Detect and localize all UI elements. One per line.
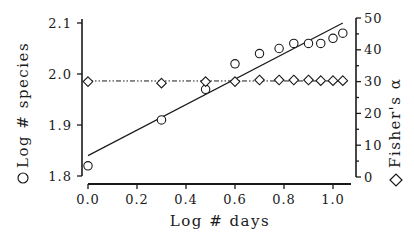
species-circle-marker — [304, 39, 312, 47]
x-tick-label: 0.2 — [125, 192, 149, 207]
species-circle-marker — [317, 39, 325, 47]
alpha-diamond-marker — [157, 78, 167, 88]
species-circle-marker — [339, 29, 347, 37]
right-y-tick-label: 20 — [364, 106, 383, 121]
alpha-diamond-marker — [328, 76, 338, 86]
data-points — [83, 29, 347, 170]
left-y-tick-label: 2.1 — [48, 16, 72, 31]
alpha-diamond-marker — [201, 77, 211, 87]
species-circle-marker — [290, 39, 298, 47]
right-y-tick-label: 40 — [364, 42, 383, 57]
species-circle-marker — [329, 34, 337, 42]
x-tick-label: 0.4 — [174, 192, 198, 207]
species-circle-marker — [275, 44, 283, 52]
alpha-diamond-marker — [289, 75, 299, 85]
left-y-tick-label: 1.9 — [48, 118, 72, 133]
species-circle-marker — [84, 162, 92, 170]
right-y-tick-label: 10 — [364, 138, 383, 153]
alpha-diamond-marker — [83, 77, 93, 87]
x-tick-label: 0.0 — [76, 192, 100, 207]
x-tick-label: 0.8 — [272, 192, 296, 207]
left-y-axis-title: Log # species — [14, 42, 32, 168]
diamond-marker-legend-icon — [390, 174, 402, 186]
left-y-tick-label: 1.8 — [48, 169, 72, 184]
right-y-tick-label: 0 — [364, 170, 373, 185]
axis-labels: Log # days Log # species Fisher's α — [14, 42, 404, 230]
species-circle-marker — [231, 60, 239, 68]
right-y-tick-label: 50 — [364, 11, 383, 26]
alpha-diamond-marker — [304, 75, 314, 85]
alpha-diamond-marker — [230, 77, 240, 87]
left-y-tick-label: 2.0 — [48, 67, 72, 82]
species-circle-marker — [255, 49, 263, 57]
alpha-diamond-marker — [338, 76, 348, 86]
alpha-diamond-marker — [316, 76, 326, 86]
right-y-tick-label: 30 — [364, 74, 383, 89]
dual-axis-scatter-chart: 1.81.92.02.1010203040500.00.20.40.60.81.… — [0, 0, 414, 239]
circle-marker-legend-icon — [18, 173, 28, 183]
x-tick-label: 1.0 — [321, 192, 345, 207]
x-tick-label: 0.6 — [223, 192, 247, 207]
alpha-diamond-marker — [274, 75, 284, 85]
x-axis-title: Log # days — [170, 212, 270, 230]
species-circle-marker — [157, 116, 165, 124]
right-y-axis-title: Fisher's α — [386, 78, 404, 168]
alpha-diamond-marker — [255, 75, 265, 85]
